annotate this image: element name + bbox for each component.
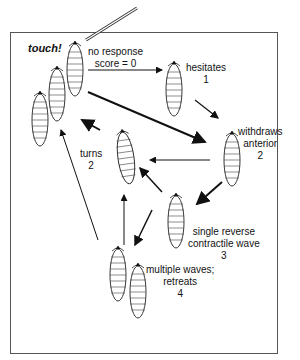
label-single-reverse-line3: 3 <box>188 250 260 262</box>
label-no-response-line2: score = 0 <box>88 58 143 70</box>
label-withdraws-line2: anterior <box>238 138 282 150</box>
label-no-response-line1: no response <box>88 46 143 58</box>
larva-single-reverse-icon <box>168 193 184 248</box>
label-turns-line2: 2 <box>80 160 102 172</box>
larva-turns-icon <box>114 128 137 185</box>
larva-no-response-icon <box>67 41 83 96</box>
label-hesitates-line2: 1 <box>186 74 226 86</box>
label-no-response: no response score = 0 <box>88 46 143 70</box>
label-withdraws-line1: withdraws <box>238 126 282 138</box>
label-hesitates-line1: hesitates <box>186 62 226 74</box>
label-turns: turns 2 <box>80 148 102 172</box>
larva-no-response-2-icon <box>49 66 65 121</box>
label-multiple-waves-line2: retreats <box>146 276 214 288</box>
larva-no-response-3-icon <box>32 91 48 146</box>
larva-behavior-diagram <box>0 0 300 360</box>
label-withdraws-line3: 2 <box>238 150 282 162</box>
larva-hesitates-icon <box>166 61 182 116</box>
label-single-reverse-line2: contractile wave <box>188 238 260 250</box>
label-withdraws-anterior: withdraws anterior 2 <box>238 126 282 162</box>
label-single-reverse-line1: single reverse <box>188 226 260 238</box>
label-multiple-waves: multiple waves; retreats 4 <box>146 264 214 300</box>
label-multiple-waves-line1: multiple waves; <box>146 264 214 276</box>
label-turns-line1: turns <box>80 148 102 160</box>
larva-multiple-waves-2-icon <box>130 263 146 318</box>
larva-multiple-waves-icon <box>110 246 126 301</box>
label-single-reverse: single reverse contractile wave 3 <box>188 226 260 262</box>
label-hesitates: hesitates 1 <box>186 62 226 86</box>
touch-stimulus-label: touch! <box>28 42 62 54</box>
touch-probe-icon <box>86 8 137 40</box>
label-multiple-waves-line3: 4 <box>146 288 214 300</box>
